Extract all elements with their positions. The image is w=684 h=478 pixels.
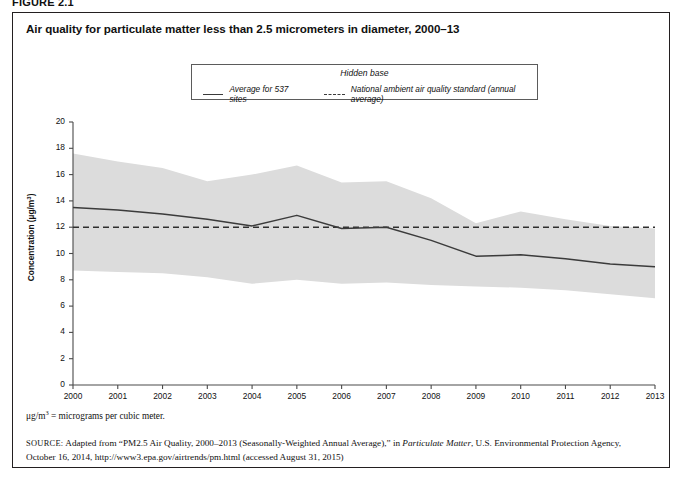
x-tick-label: 2007 — [366, 391, 406, 401]
x-tick-label: 2010 — [501, 391, 541, 401]
x-tick-label: 2009 — [456, 391, 496, 401]
legend-item-standard: National ambient air quality standard (a… — [324, 84, 537, 104]
legend-entries: Average for 537 sites National ambient a… — [192, 84, 537, 104]
source-text-part1: Adapted from “PM2.5 Air Quality, 2000–20… — [63, 438, 402, 448]
y-tick-label: 12 — [39, 221, 65, 231]
solid-line-icon — [203, 94, 223, 95]
chart-legend: Hidden base Average for 537 sites Nation… — [191, 64, 538, 100]
x-tick-label: 2012 — [590, 391, 630, 401]
y-tick-label: 0 — [39, 379, 65, 389]
legend-item-average: Average for 537 sites — [203, 84, 302, 104]
y-axis-title: Concentration (µg/m3) — [26, 172, 37, 302]
source-note: SOURCE: Adapted from “PM2.5 Air Quality,… — [26, 437, 642, 464]
y-tick-label: 4 — [39, 326, 65, 336]
x-tick-label: 2000 — [53, 391, 93, 401]
y-tick-label: 6 — [39, 300, 65, 310]
chart-title: Air quality for particulate matter less … — [26, 22, 459, 35]
x-tick-label: 2004 — [232, 391, 272, 401]
legend-title: Hidden base — [192, 68, 537, 78]
y-tick-label: 14 — [39, 195, 65, 205]
x-tick-label: 2005 — [277, 391, 317, 401]
unit-note: μg/m3 = micrograms per cubic meter. — [26, 409, 165, 421]
source-tag: SOURCE: — [26, 439, 63, 448]
x-tick-label: 2001 — [98, 391, 138, 401]
source-publication-title: Particulate Matter — [402, 438, 471, 448]
legend-item-standard-label: National ambient air quality standard (a… — [351, 84, 537, 104]
y-tick-label: 16 — [39, 169, 65, 179]
unit-note-text: = micrograms per cubic meter. — [49, 411, 165, 421]
dashed-line-icon — [324, 94, 345, 95]
y-tick-label: 2 — [39, 353, 65, 363]
x-tick-label: 2013 — [635, 391, 675, 401]
x-tick-label: 2011 — [545, 391, 585, 401]
x-tick-label: 2008 — [411, 391, 451, 401]
y-tick-label: 8 — [39, 274, 65, 284]
legend-item-average-label: Average for 537 sites — [229, 84, 302, 104]
y-tick-label: 20 — [39, 116, 65, 126]
y-tick-label: 10 — [39, 248, 65, 258]
y-tick-label: 18 — [39, 142, 65, 152]
x-tick-label: 2003 — [187, 391, 227, 401]
unit-note-prefix: μg/m — [26, 411, 45, 421]
x-tick-label: 2002 — [143, 391, 183, 401]
x-tick-label: 2006 — [322, 391, 362, 401]
figure-label: FIGURE 2.1 — [12, 0, 74, 8]
